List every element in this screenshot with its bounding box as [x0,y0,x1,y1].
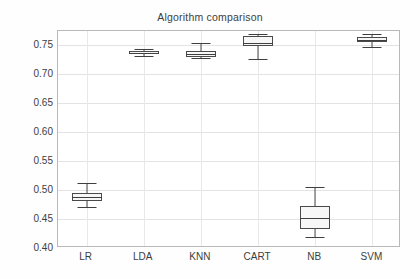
whisker-cap-lower [134,56,153,57]
whisker-cap-upper [249,34,268,35]
boxplot-lr [58,31,115,246]
whisker-cap-upper [191,43,210,44]
y-axis: 0.400.450.500.550.600.650.700.75 [3,30,53,247]
plot-area [57,30,400,247]
boxplot-knn [172,31,229,246]
median-line [243,43,273,44]
median-line [357,40,387,41]
x-axis: LRLDAKNNCARTNBSVM [57,251,400,271]
x-axis-tick-label: LR [79,251,92,262]
y-axis-tick-label: 0.40 [7,242,53,253]
median-line [72,197,102,198]
whisker-cap-lower [77,207,96,208]
whisker-lower [258,46,259,59]
boxplot-nb [287,31,344,246]
box-iqr [243,36,273,45]
y-axis-tick-label: 0.45 [7,213,53,224]
x-axis-tick-label: LDA [133,251,152,262]
x-axis-tick-label: CART [244,251,271,262]
x-axis-tick-label: NB [307,251,321,262]
median-line [300,218,330,219]
whisker-upper [200,43,201,52]
y-axis-tick-label: 0.55 [7,155,53,166]
y-axis-tick-label: 0.50 [7,184,53,195]
whisker-cap-lower [191,58,210,59]
chart-title: Algorithm comparison [0,11,420,23]
whisker-cap-upper [363,34,382,35]
median-line [129,53,159,54]
y-axis-tick-label: 0.75 [7,39,53,50]
whisker-cap-lower [306,237,325,238]
y-axis-tick-label: 0.70 [7,68,53,79]
y-axis-tick-label: 0.60 [7,126,53,137]
whisker-cap-upper [306,187,325,188]
whisker-cap-lower [249,59,268,60]
boxplot-svm [344,31,401,246]
boxplot-lda [115,31,172,246]
whisker-cap-upper [77,183,96,184]
whisker-cap-lower [363,47,382,48]
whisker-lower [315,229,316,237]
chart-figure: Algorithm comparison 0.400.450.500.550.6… [0,0,420,279]
median-line [186,54,216,55]
x-axis-tick-label: KNN [189,251,210,262]
boxplot-cart [230,31,287,246]
whisker-upper [315,187,316,206]
whisker-upper [86,183,87,193]
x-axis-tick-label: SVM [361,251,383,262]
y-axis-tick-label: 0.65 [7,97,53,108]
